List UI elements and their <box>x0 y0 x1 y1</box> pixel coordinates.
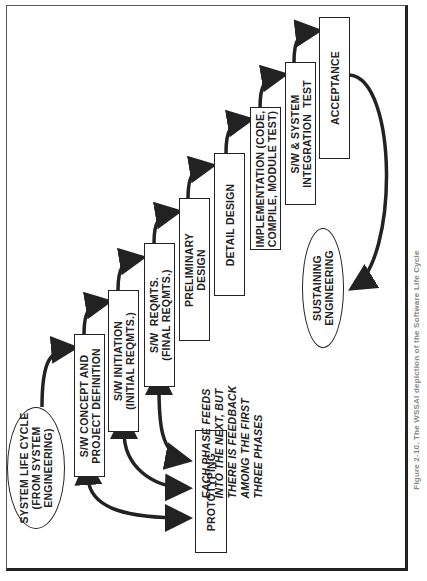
phase-acceptance: ACCEPTANCE <box>319 17 350 159</box>
phase-initiation: S/W INITIATION (INITIAL REQMTS.) <box>108 290 139 432</box>
phase-concept-definition: S/W CONCEPT AND PROJECT DEFINITION <box>74 334 105 477</box>
phase-requirements: S/W REQMTS. (FINAL REQMTS.) <box>144 243 175 387</box>
sustaining-engineering-node: SUSTAINING ENGINEERING <box>302 228 344 348</box>
phase-integration-test: S/W & SYSTEM INTEGRATION TEST <box>285 62 316 205</box>
system-life-cycle-node: SYSTEM LIFE CYCLE (FROM SYSTEM ENGINEERI… <box>7 407 65 529</box>
phase-detail-design: DETAIL DESIGN <box>214 153 245 296</box>
phase-preliminary-design: PRELIMINARY DESIGN <box>179 198 210 341</box>
phase-implementation: IMPLEMENTATION (CODE, COMPILE, MODULE TE… <box>250 107 281 250</box>
